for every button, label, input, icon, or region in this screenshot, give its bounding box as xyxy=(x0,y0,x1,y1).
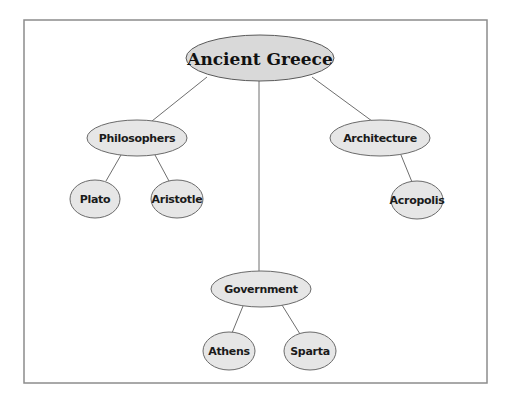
node-plato[interactable]: Plato xyxy=(70,180,120,218)
node-government[interactable]: Government xyxy=(211,271,311,307)
node-philosophers-label: Philosophers xyxy=(99,132,176,145)
concept-map-diagram: Ancient Greece PhilosophersArchitectureG… xyxy=(0,0,515,405)
node-athens[interactable]: Athens xyxy=(203,332,255,370)
node-aristotle-label: Aristotle xyxy=(152,193,203,206)
node-acropolis-label: Acropolis xyxy=(390,194,446,207)
node-plato-label: Plato xyxy=(80,193,111,206)
node-athens-label: Athens xyxy=(208,345,250,358)
root-node[interactable]: Ancient Greece xyxy=(186,35,334,81)
node-philosophers[interactable]: Philosophers xyxy=(87,120,187,156)
node-aristotle[interactable]: Aristotle xyxy=(151,180,203,218)
root-node-label: Ancient Greece xyxy=(186,49,333,69)
node-government-label: Government xyxy=(224,283,298,296)
node-sparta-label: Sparta xyxy=(290,345,330,358)
node-architecture-label: Architecture xyxy=(343,132,417,145)
node-architecture[interactable]: Architecture xyxy=(330,120,430,156)
node-sparta[interactable]: Sparta xyxy=(284,332,336,370)
